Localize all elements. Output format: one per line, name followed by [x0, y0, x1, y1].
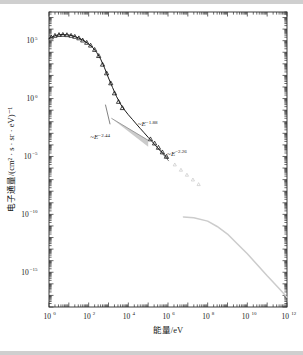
data-line: [183, 217, 287, 297]
series-faint-gray-points: [173, 163, 200, 186]
y-tick-mantissa: 10: [24, 152, 32, 161]
y-tick-exponent: 0: [35, 94, 38, 99]
data-marker: [191, 178, 194, 181]
y-axis-title: 电子通量/(cm² · s · sr · eV)⁻¹: [6, 107, 16, 213]
x-tick-label-1: 102: [83, 311, 96, 321]
x-tick-mantissa: 10: [44, 312, 52, 321]
data-marker: [173, 163, 176, 166]
x-tick-label-0: 100: [44, 311, 57, 321]
series-gray-high-energy-curve: [183, 217, 287, 297]
y-tick-mantissa: 10: [26, 36, 34, 45]
x-tick-exponent: 6: [172, 311, 175, 316]
y-tick-label-4: 10−15: [21, 267, 38, 277]
x-tick-mantissa: 10: [123, 312, 131, 321]
y-tick-exponent: −15: [30, 267, 38, 272]
annotation-text: ~E−1.88: [138, 120, 158, 129]
y-tick-exponent: −10: [30, 209, 38, 214]
x-tick-exponent: 10: [252, 311, 257, 316]
y-axis-title-text: 电子通量/(cm² · s · sr · eV)⁻¹: [6, 107, 16, 213]
x-tick-exponent: 8: [212, 311, 215, 316]
x-tick-mantissa: 10: [242, 312, 250, 321]
electron-flux-spectrum-chart: 1001021041061081010101210510010−510−1010…: [0, 0, 303, 355]
x-tick-exponent: 12: [291, 311, 297, 316]
x-tick-mantissa: 10: [202, 312, 210, 321]
annotation-slope-high-energy: ~E−2.26: [167, 149, 187, 158]
x-tick-label-6: 1012: [282, 311, 297, 321]
y-tick-label-3: 10−10: [21, 209, 38, 219]
y-tick-exponent: 5: [35, 36, 38, 41]
y-tick-mantissa: 10: [26, 94, 34, 103]
y-tick-exponent: −5: [32, 151, 38, 156]
plot-frame: [49, 12, 287, 307]
x-tick-label-2: 104: [123, 311, 136, 321]
annotation-slope-low-energy: ~E−2.44: [90, 133, 110, 142]
annotation-text: ~E−2.26: [167, 149, 187, 158]
data-marker: [197, 183, 200, 186]
x-tick-exponent: 4: [133, 311, 136, 316]
x-tick-mantissa: 10: [83, 312, 91, 321]
bottom-border-band: [0, 351, 303, 355]
series-electron-flux-main-curve: [49, 35, 168, 159]
x-tick-exponent: 0: [53, 311, 56, 316]
data-line: [49, 35, 168, 159]
figure-container: 1001021041061081010101210510010−510−1010…: [0, 0, 303, 355]
data-marker: [179, 168, 182, 171]
x-tick-label-3: 106: [163, 311, 176, 321]
y-axis-minor-ticks: [49, 12, 287, 307]
x-tick-exponent: 2: [93, 311, 96, 316]
y-tick-label-1: 100: [26, 94, 38, 104]
x-axis-title: 能量/eV: [153, 325, 184, 335]
x-tick-label-4: 108: [202, 311, 215, 321]
y-tick-label-0: 105: [26, 36, 38, 46]
y-tick-mantissa: 10: [21, 210, 29, 219]
top-border-band: [0, 0, 303, 4]
y-tick-mantissa: 10: [21, 268, 29, 277]
x-tick-label-5: 1010: [242, 311, 257, 321]
x-tick-mantissa: 10: [282, 312, 290, 321]
x-tick-mantissa: 10: [163, 312, 171, 321]
data-marker: [116, 99, 120, 103]
annotation-slope-mid-energy: ~E−1.88: [138, 120, 158, 129]
slope-pointer-low: [105, 105, 110, 125]
y-tick-label-2: 10−5: [24, 151, 38, 161]
x-axis-minor-ticks: [49, 12, 287, 307]
data-marker: [185, 173, 188, 176]
annotation-text: ~E−2.44: [90, 133, 110, 142]
